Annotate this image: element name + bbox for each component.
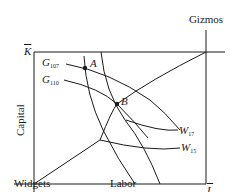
contract-curve: [34, 52, 206, 184]
isoquant-g110-label: G110: [42, 74, 59, 86]
point-a-marker: [83, 66, 87, 70]
widgets-origin-label: Widgets: [14, 178, 50, 189]
edgeworth-box-diagram: Gizmos Widgets Labor Capital K L G107 G1…: [0, 0, 234, 192]
point-a-label: A: [90, 58, 97, 69]
isoquant-g110: [64, 80, 148, 138]
gizmos-origin-label: Gizmos: [189, 14, 223, 25]
point-b-label: B: [121, 96, 128, 107]
labor-total-label: L: [207, 185, 213, 192]
diagram-canvas: [0, 0, 234, 192]
point-b-marker: [115, 102, 119, 106]
isoquant-w17-label: W17: [179, 125, 194, 137]
isoquant-w15-label: W15: [181, 142, 196, 154]
labor-axis-label: Labor: [110, 178, 136, 189]
capital-total-label: K: [24, 46, 31, 57]
isoquant-g107-label: G107: [42, 57, 59, 69]
capital-axis-label: Capital: [15, 104, 26, 136]
